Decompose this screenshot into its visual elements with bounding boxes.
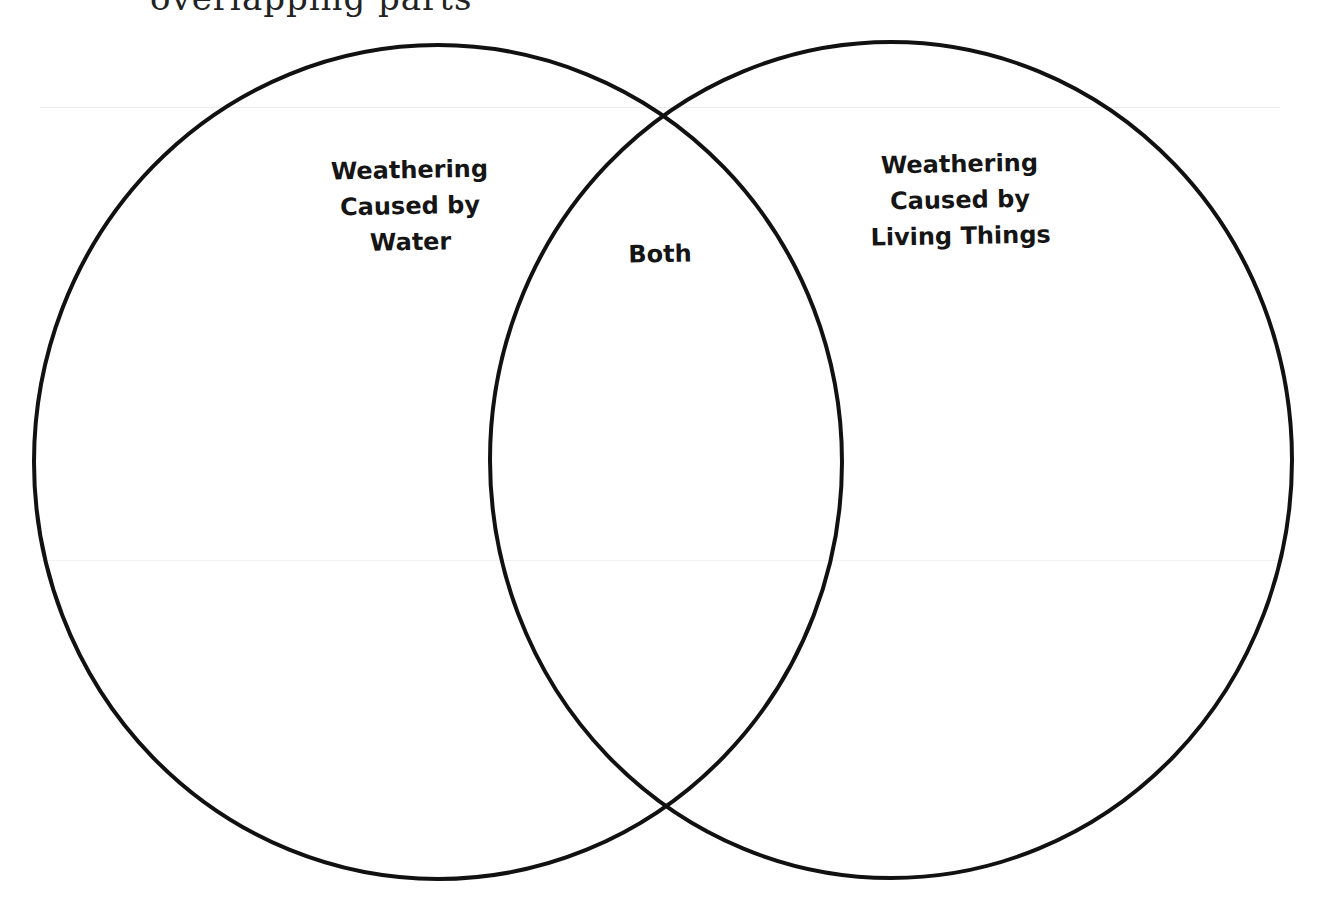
left-label-line-1: Weathering bbox=[299, 150, 520, 190]
intersection-label: Both bbox=[600, 235, 721, 273]
left-label-line-3: Water bbox=[300, 222, 521, 262]
right-label-line-2: Caused by bbox=[850, 180, 1071, 220]
left-label-line-2: Caused by bbox=[300, 186, 521, 226]
right-set-label: Weathering Caused by Living Things bbox=[849, 144, 1071, 256]
venn-diagram bbox=[0, 0, 1320, 897]
right-label-line-1: Weathering bbox=[849, 144, 1070, 184]
right-label-line-3: Living Things bbox=[850, 216, 1071, 256]
left-set-label: Weathering Caused by Water bbox=[299, 150, 521, 262]
both-label: Both bbox=[600, 235, 721, 273]
